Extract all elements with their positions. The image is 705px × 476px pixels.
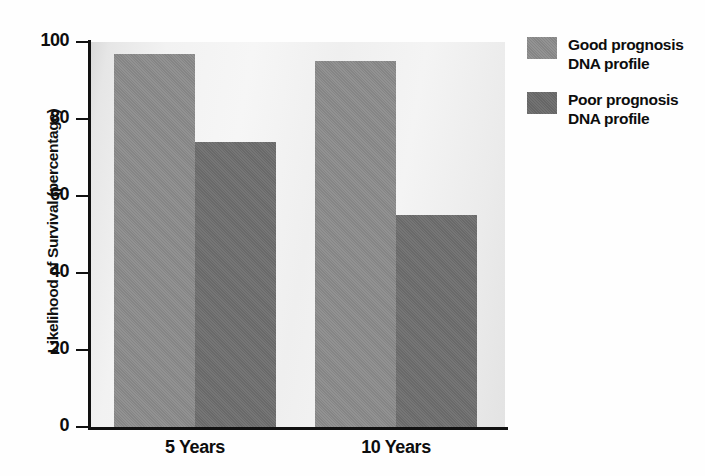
bar-poor-10-years [396, 215, 477, 427]
y-tick-label-100: 100 [9, 30, 69, 51]
y-tick-label-0: 0 [9, 415, 69, 436]
legend-item-poor-prognosis: Poor prognosis DNA profile [527, 91, 702, 128]
legend-swatch-good-icon [527, 37, 557, 59]
chart-legend: Good prognosis DNA profile Poor prognosi… [527, 36, 702, 146]
bar-good-10-years [315, 61, 396, 427]
y-tick-mark-100 [76, 41, 89, 44]
y-tick-label-80: 80 [9, 107, 69, 128]
legend-label-poor: Poor prognosis DNA profile [568, 91, 678, 128]
x-category-label-5-years: 5 Years [105, 437, 285, 458]
legend-swatch-poor-icon [527, 92, 557, 114]
legend-label-good-line1: Good prognosis [568, 36, 684, 55]
legend-label-poor-line1: Poor prognosis [568, 91, 678, 110]
x-axis-line [88, 427, 508, 430]
y-tick-mark-0 [76, 426, 89, 429]
legend-label-good: Good prognosis DNA profile [568, 36, 684, 73]
y-tick-label-60: 60 [9, 184, 69, 205]
bar-chart-figure: Likelihood of Survival (percentage) 100 … [0, 0, 705, 476]
y-tick-mark-60 [76, 195, 89, 198]
y-tick-label-20: 20 [9, 338, 69, 359]
legend-label-poor-line2: DNA profile [568, 110, 678, 129]
y-tick-mark-80 [76, 118, 89, 121]
legend-label-good-line2: DNA profile [568, 55, 684, 74]
legend-item-good-prognosis: Good prognosis DNA profile [527, 36, 702, 73]
y-tick-label-40: 40 [9, 261, 69, 282]
x-category-label-10-years: 10 Years [306, 437, 486, 458]
bar-poor-5-years [195, 142, 276, 427]
bar-good-5-years [114, 54, 195, 427]
y-tick-mark-40 [76, 272, 89, 275]
y-axis-line [88, 40, 91, 429]
y-tick-mark-20 [76, 349, 89, 352]
plot-area [90, 42, 505, 427]
